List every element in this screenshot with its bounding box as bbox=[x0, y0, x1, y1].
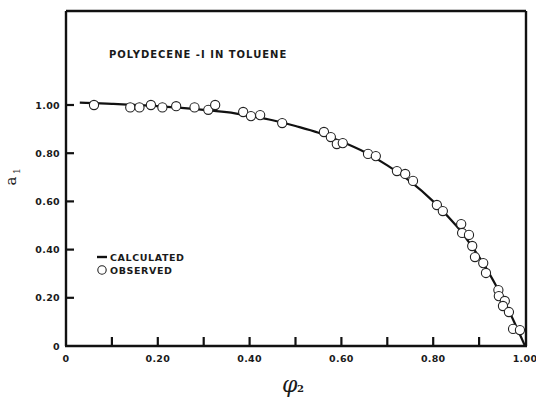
legend-observed-label: OBSERVED bbox=[110, 265, 173, 276]
observed-point bbox=[479, 258, 488, 267]
observed-point bbox=[457, 219, 466, 228]
observed-point bbox=[158, 103, 167, 112]
x-tick-label: 0.60 bbox=[329, 353, 354, 364]
observed-point bbox=[515, 325, 524, 334]
observed-point bbox=[408, 176, 417, 185]
x-tick-label: 1.00 bbox=[513, 353, 536, 364]
observed-point bbox=[438, 206, 447, 215]
observed-point bbox=[464, 230, 473, 239]
x-tick-label: 0.20 bbox=[145, 353, 170, 364]
y-tick-label: 0 bbox=[53, 341, 60, 352]
observed-point bbox=[146, 100, 155, 109]
observed-point bbox=[89, 100, 98, 109]
observed-point bbox=[126, 103, 135, 112]
x-tick-label: 0.40 bbox=[237, 353, 262, 364]
y-axis-title-sub: 1 bbox=[12, 168, 22, 174]
x-tick-label: 0 bbox=[63, 353, 70, 364]
observed-point bbox=[338, 138, 347, 147]
observed-point bbox=[504, 307, 513, 316]
y-tick-label: 0.60 bbox=[35, 196, 60, 207]
y-tick-label: 0.20 bbox=[35, 292, 60, 303]
y-tick-label: 0.40 bbox=[35, 244, 60, 255]
legend-circle-icon bbox=[98, 266, 106, 274]
observed-point bbox=[401, 169, 410, 178]
legend-calculated-label: CALCULATED bbox=[110, 252, 185, 263]
observed-point bbox=[470, 252, 479, 261]
observed-point bbox=[481, 268, 490, 277]
observed-point bbox=[211, 100, 220, 109]
x-axis-title-sub: 2 bbox=[297, 383, 304, 394]
y-tick-label: 1.00 bbox=[35, 100, 60, 111]
chart-background bbox=[0, 0, 536, 409]
observed-point bbox=[190, 103, 199, 112]
observed-point bbox=[371, 151, 380, 160]
x-axis-title-main: φ bbox=[282, 372, 298, 397]
x-tick-label: 0.80 bbox=[421, 353, 446, 364]
chart-title: POLYDECENE -I IN TOLUENE bbox=[109, 49, 287, 60]
observed-point bbox=[468, 241, 477, 250]
observed-point bbox=[278, 118, 287, 127]
observed-point bbox=[256, 111, 265, 120]
observed-point bbox=[135, 103, 144, 112]
y-axis-title-main: a bbox=[2, 176, 20, 185]
chart: 00.200.400.600.801.00 00.200.400.600.801… bbox=[0, 0, 536, 409]
y-tick-label: 0.80 bbox=[35, 148, 60, 159]
observed-point bbox=[172, 102, 181, 111]
observed-point bbox=[246, 111, 255, 120]
